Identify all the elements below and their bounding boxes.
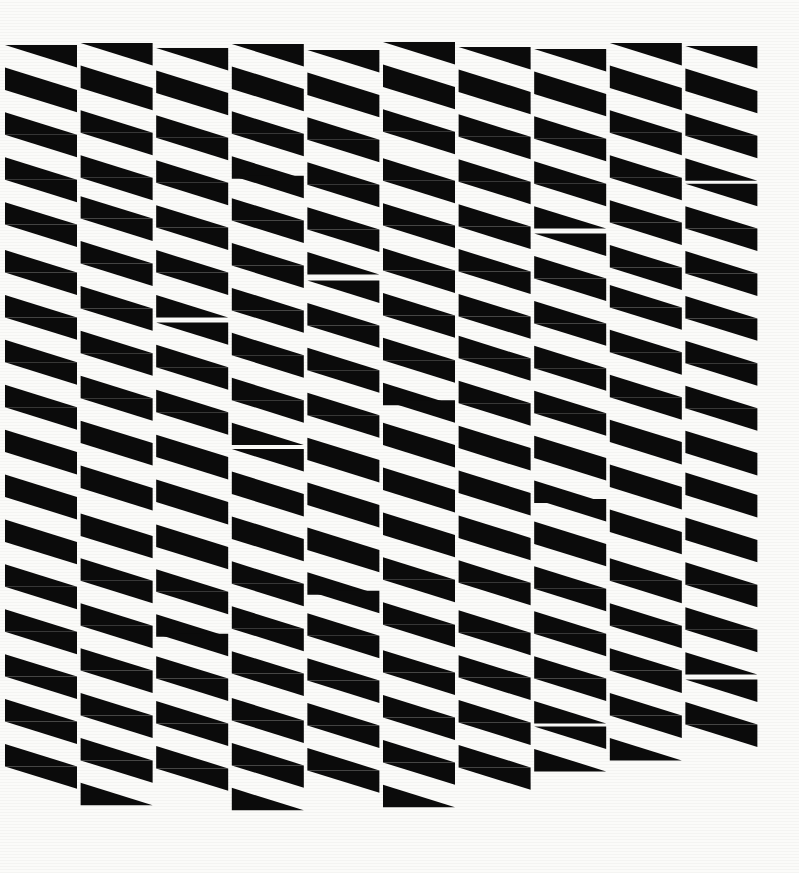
triangle-tessellation	[0, 0, 799, 873]
artwork-canvas	[0, 0, 799, 873]
